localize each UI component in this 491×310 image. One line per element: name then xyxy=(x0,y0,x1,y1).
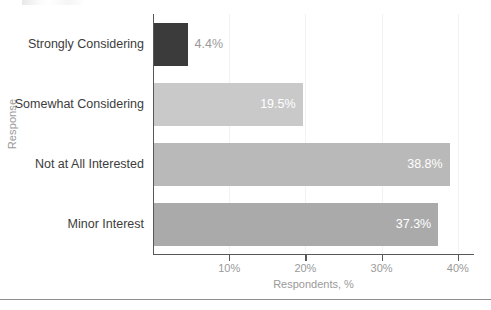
x-tick-label-2: 30% xyxy=(371,262,393,274)
bar-value-label-3: 37.3% xyxy=(396,217,431,231)
bar-3[interactable]: 37.3% xyxy=(154,203,438,246)
x-tick-label-3: 40% xyxy=(447,262,469,274)
clipped-text-artifact xyxy=(22,0,112,5)
x-axis-title: Respondents, % xyxy=(153,278,474,290)
x-axis-line xyxy=(153,254,474,255)
bar-value-label-0: 4.4% xyxy=(195,37,224,51)
x-tick-label-1: 20% xyxy=(294,262,316,274)
x-tick-label-0: 10% xyxy=(218,262,240,274)
bottom-divider xyxy=(0,299,491,300)
x-tick-mark-2 xyxy=(382,255,383,261)
category-label-3: Minor Interest xyxy=(68,217,144,231)
category-label-1: Somewhat Considering xyxy=(15,97,144,111)
bar-1[interactable]: 19.5% xyxy=(154,83,303,126)
x-tick-mark-3 xyxy=(458,255,459,261)
bar-2[interactable]: 38.8% xyxy=(154,143,450,186)
x-tick-mark-0 xyxy=(229,255,230,261)
x-tick-mark-1 xyxy=(305,255,306,261)
category-label-2: Not at All Interested xyxy=(35,157,144,171)
bar-0[interactable]: 4.4% xyxy=(154,23,188,66)
bar-value-label-2: 38.8% xyxy=(407,157,442,171)
gridline-40 xyxy=(458,14,459,254)
bar-chart: Response 4.4%19.5%38.8%37.3% Strongly Co… xyxy=(0,0,491,310)
category-label-0: Strongly Considering xyxy=(28,37,144,51)
bar-value-label-1: 19.5% xyxy=(260,97,295,111)
